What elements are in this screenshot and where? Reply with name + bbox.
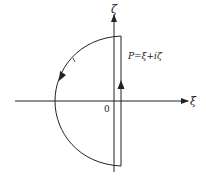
arc-arrow-icon	[59, 71, 66, 81]
contour-diagram: ζ ξ 0 P=ξ+iζ	[0, 0, 206, 182]
xi-label: ξ	[190, 95, 197, 108]
origin-label: 0	[104, 104, 110, 114]
point-label: P=ξ+iζ	[127, 51, 163, 61]
up-arrow-icon	[118, 80, 125, 89]
arc-tick	[73, 58, 75, 62]
zeta-label: ζ	[111, 3, 118, 16]
